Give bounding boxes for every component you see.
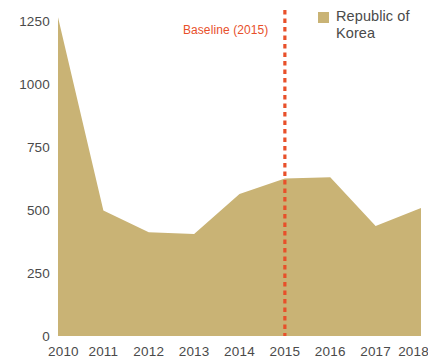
series-area-republic-of-korea <box>58 17 421 336</box>
x-tick-label: 2018 <box>398 344 428 359</box>
x-tick-label: 2017 <box>360 344 391 359</box>
x-tick-label: 2013 <box>179 344 210 359</box>
y-tick-label: 500 <box>27 203 50 218</box>
plot-area <box>58 17 421 336</box>
baseline-annotation-label: Baseline (2015) <box>183 23 269 37</box>
x-tick-label: 2011 <box>88 344 118 359</box>
x-axis-tick-labels: 201020112012201320142015201620172018 <box>48 344 428 359</box>
y-tick-label: 1250 <box>19 14 50 29</box>
y-tick-label: 250 <box>27 266 50 281</box>
y-tick-label: 0 <box>42 329 50 344</box>
x-tick-label: 2015 <box>269 344 300 359</box>
legend-label-republic-of-korea: Republic of Korea <box>336 8 422 42</box>
legend-swatch-republic-of-korea <box>318 12 329 23</box>
x-tick-label: 2012 <box>133 344 164 359</box>
y-tick-label: 750 <box>27 140 50 155</box>
x-tick-label: 2014 <box>224 344 255 359</box>
chart-svg: 1250 1000 750 500 250 0 2010201120122013… <box>0 0 428 360</box>
y-axis-tick-labels: 1250 1000 750 500 250 0 <box>19 14 50 344</box>
x-tick-label: 2010 <box>48 344 79 359</box>
chart-legend: Republic of Korea <box>318 8 422 42</box>
y-tick-label: 1000 <box>19 77 50 92</box>
x-tick-label: 2016 <box>315 344 346 359</box>
area-chart: 1250 1000 750 500 250 0 2010201120122013… <box>0 0 428 360</box>
